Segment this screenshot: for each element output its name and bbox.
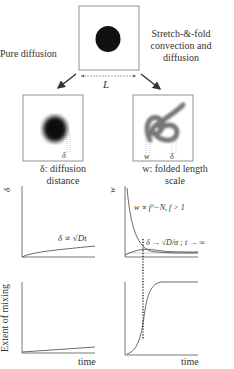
diffusion-distance-caption: δ: diffusion distance xyxy=(28,163,98,187)
delta-formula: δ ∝ √Dt xyxy=(58,232,87,244)
stretch-fold-caption: Stretch-&-fold convection and diffusion xyxy=(146,28,216,64)
mixing-axis-label: Extent of mixing xyxy=(0,283,11,353)
pure-diffusion-box xyxy=(23,95,83,161)
delta-limit-formula: δ → √D/α ; t → ∞ xyxy=(146,237,205,249)
delta-marker-right: δ xyxy=(170,151,174,163)
time-label-left: time xyxy=(78,356,96,368)
plot-delta-pure xyxy=(22,186,95,257)
delta-marker-left: δ xyxy=(62,150,66,162)
folded-length-caption: w: folded length scale xyxy=(135,163,215,187)
domain-length-label: L xyxy=(103,78,109,90)
initial-state-box xyxy=(79,6,139,70)
stretch-fold-box xyxy=(133,95,193,161)
plot-mixing-pure xyxy=(22,282,95,353)
delta-axis-label: δ xyxy=(1,188,13,192)
w-formula: w ∝ f^−N, f > 1 xyxy=(134,202,185,214)
w-axis-label: w xyxy=(107,187,119,192)
plot-mixing-stretch xyxy=(125,282,198,355)
w-marker: w xyxy=(144,151,149,163)
pure-diffusion-caption: Pure diffusion xyxy=(0,48,57,60)
time-label-right: time xyxy=(181,356,199,368)
